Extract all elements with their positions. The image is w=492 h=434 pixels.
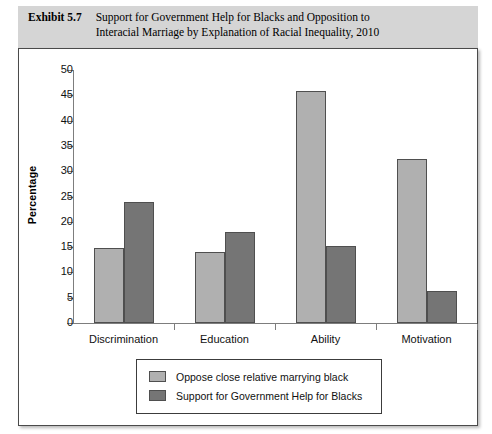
x-axis-tick-mark bbox=[477, 324, 478, 330]
y-axis-tick-label: 35 bbox=[33, 139, 73, 151]
bar-ability-series-1 bbox=[296, 91, 326, 323]
y-axis-tick-label: 30 bbox=[33, 164, 73, 176]
exhibit-title-line-2: Interacial Marriage by Explanation of Ra… bbox=[96, 25, 379, 40]
legend-swatch-icon-series-2 bbox=[149, 390, 166, 401]
y-axis-tick-label: 5 bbox=[33, 291, 73, 303]
exhibit-header-band: Exhibit 5.7 Support for Government Help … bbox=[18, 6, 478, 48]
legend-label-series-1: Oppose close relative marrying black bbox=[176, 371, 348, 383]
legend-label-series-2: Support for Government Help for Blacks bbox=[176, 390, 362, 402]
y-axis-tick-row: 50 bbox=[19, 70, 73, 71]
y-axis-tick-row: 25 bbox=[19, 197, 73, 198]
bar-education-series-2 bbox=[225, 232, 255, 323]
y-axis-tick-row: 10 bbox=[19, 272, 73, 273]
y-axis-tick-row: 20 bbox=[19, 222, 73, 223]
x-axis-label-motivation: Motivation bbox=[367, 333, 487, 345]
bar-motivation-series-2 bbox=[427, 291, 457, 323]
chart-frame: Percentage 05101520253035404550 Discrimi… bbox=[18, 48, 478, 426]
y-axis-tick-label: 10 bbox=[33, 265, 73, 277]
bar-motivation-series-1 bbox=[397, 159, 427, 323]
exhibit-header-inner: Exhibit 5.7 Support for Government Help … bbox=[18, 6, 478, 40]
exhibit-title: Support for Government Help for Blacks a… bbox=[96, 10, 379, 40]
y-axis-tick-row: 15 bbox=[19, 247, 73, 248]
y-axis-tick-row: 30 bbox=[19, 171, 73, 172]
y-axis-tick-label: 15 bbox=[33, 240, 73, 252]
y-axis-tick-label: 25 bbox=[33, 190, 73, 202]
y-axis-tick-row: 45 bbox=[19, 95, 73, 96]
y-axis-tick-label: 50 bbox=[33, 63, 73, 75]
y-axis-tick-row: 35 bbox=[19, 146, 73, 147]
bar-discrimination-series-1 bbox=[94, 248, 124, 323]
x-axis-tick-mark bbox=[376, 324, 377, 330]
legend-item-series-2: Support for Government Help for Blacks bbox=[149, 386, 371, 405]
chart-legend: Oppose close relative marrying black Sup… bbox=[136, 359, 382, 414]
bar-education-series-1 bbox=[195, 252, 225, 323]
y-axis-tick-label: 20 bbox=[33, 215, 73, 227]
x-axis-tick-mark bbox=[275, 324, 276, 330]
y-axis-tick-row: 40 bbox=[19, 121, 73, 122]
y-axis-tick-label: 40 bbox=[33, 114, 73, 126]
legend-swatch-icon-series-1 bbox=[149, 371, 166, 382]
exhibit-number-label: Exhibit 5.7 bbox=[28, 10, 82, 23]
plot-area: Percentage 05101520253035404550 Discrimi… bbox=[19, 49, 479, 427]
x-axis-tick-mark bbox=[174, 324, 175, 330]
exhibit-title-line-1: Support for Government Help for Blacks a… bbox=[96, 10, 379, 25]
bar-discrimination-series-2 bbox=[124, 202, 154, 323]
y-axis-tick-label: 45 bbox=[33, 88, 73, 100]
y-axis-tick-row: 5 bbox=[19, 298, 73, 299]
y-axis-tick-label: 0 bbox=[33, 316, 73, 328]
y-axis-line bbox=[73, 70, 74, 323]
legend-item-series-1: Oppose close relative marrying black bbox=[149, 367, 371, 386]
y-axis-tick-row: 0 bbox=[19, 323, 73, 324]
bar-ability-series-2 bbox=[326, 246, 356, 323]
